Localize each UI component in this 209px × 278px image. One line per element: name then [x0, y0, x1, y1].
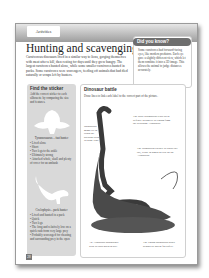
caption-top-right: The adult Barosaurus rears up in defence…	[133, 115, 173, 126]
coelophysis-silhouette[interactable]	[32, 172, 72, 206]
section-tab: Activities	[27, 26, 60, 37]
caption-bottom-left: An Allosaurus approaches with its jaws o…	[89, 241, 123, 248]
book-page: Activities Hunting and scavenging Carniv…	[15, 23, 198, 265]
silhouette2-facts: Lived and hunted in a pack Quick Two leg…	[30, 213, 74, 241]
find-sticker-panel: Find the sticker Add the correct sticker…	[27, 84, 76, 256]
silhouette1-facts: Lived alone Short Two legs to the ankle …	[30, 141, 74, 165]
intro-paragraph: Carnivorous dinosaurs lived in a similar…	[26, 55, 129, 78]
did-you-know-heading: Did you know?	[133, 38, 191, 46]
caption-mid-right: The Barosaurus swipes its whip-like tail…	[137, 147, 179, 158]
caption-left: Barosaurus might try to crush the predat…	[84, 125, 102, 143]
dinosaur-battle-panel: Dinosaur battle Draw lines to link each …	[80, 84, 186, 258]
find-sticker-instructions: Add the correct sticker to each silhouet…	[27, 93, 76, 104]
did-you-know-text: Some carnivores had forward-facing eyes,…	[134, 46, 191, 74]
silhouette2-label: Coelophysis – pack hunter	[27, 208, 76, 212]
did-you-know-box: Did you know? Some carnivores had forwar…	[133, 36, 192, 88]
page-number: 28	[26, 254, 32, 260]
dinosaur-battle-heading: Dinosaur battle	[81, 85, 185, 94]
page-title: Hunting and scavenging	[26, 42, 138, 54]
tyrannosaurus-silhouette[interactable]	[32, 106, 72, 134]
caption-bottom-right: The young Barosaurus hides behind its pa…	[143, 241, 179, 248]
silhouette1-label: Tyrannosaurus – fast hunter	[27, 136, 76, 140]
dinosaur-battle-instructions: Draw lines to link each label to the cor…	[81, 94, 185, 98]
